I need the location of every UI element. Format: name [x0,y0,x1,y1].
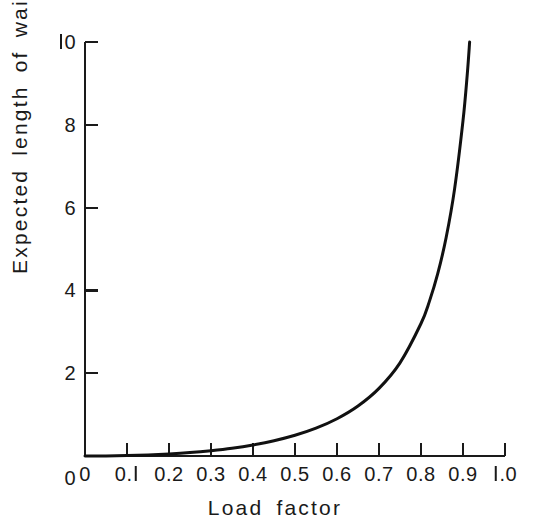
y-axis-tick-label: 2 [24,363,76,383]
x-axis-tick-label: 0.8 [406,464,435,484]
x-axis-tick-label: 0. [115,464,139,484]
x-axis-tick-label: 0.2 [154,464,183,484]
y-axis-tick-label: 4 [24,280,76,300]
x-axis-tick-label: .0 [493,464,517,484]
y-axis-tick-label: 6 [24,198,76,218]
x-axis-tick-label: 0 [79,464,91,484]
x-axis-tick-label: 0.3 [196,464,225,484]
y-axis-tick-label: 0 [24,468,76,488]
x-axis-tick-label: 0.6 [322,464,351,484]
data-series-curve [85,42,470,456]
y-axis-tick-label: 8 [24,115,76,135]
x-axis-tick-label: 0.5 [280,464,309,484]
axis-lines [85,42,505,456]
chart-figure: 024680 00.0.20.30.40.50.60.70.80.9.0 Loa… [0,0,550,532]
y-axis-ticks [85,42,98,373]
x-axis-tick-label: 0.9 [448,464,477,484]
plot-area [0,0,550,532]
x-axis-title: Load factor [0,496,550,520]
x-axis-tick-label: 0.7 [364,464,393,484]
y-axis-tick-label: 0 [24,32,76,52]
x-axis-tick-label: 0.4 [238,464,267,484]
